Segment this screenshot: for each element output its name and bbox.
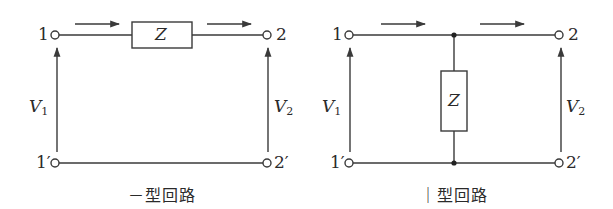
v1-label: V1 (29, 98, 48, 117)
shunt-circuit-caption: ｜型回路 (420, 188, 488, 204)
circuit-drawing (0, 0, 613, 209)
series-circuit-caption: －型回路 (128, 188, 196, 204)
terminal-1prime-circle (51, 159, 59, 167)
terminal-1prime-label: 1′ (330, 154, 345, 171)
v2-label: V2 (274, 98, 293, 117)
shunt-impedance-label: Z (448, 92, 460, 109)
v2-label: V2 (566, 98, 585, 117)
terminal-2prime-circle (555, 159, 563, 167)
junction-dot-bottom (451, 160, 456, 165)
terminal-2-circle (263, 31, 271, 39)
terminal-1-circle (51, 31, 59, 39)
v1-label: V1 (322, 98, 341, 117)
junction-dot-top (451, 32, 456, 37)
terminal-1-label: 1 (38, 26, 49, 43)
terminal-2-label: 2 (568, 26, 579, 43)
terminal-2-label: 2 (276, 26, 287, 43)
series-impedance-label: Z (155, 26, 167, 43)
terminal-2prime-label: 2′ (566, 154, 581, 171)
terminal-1prime-circle (345, 159, 353, 167)
terminal-2prime-circle (263, 159, 271, 167)
terminal-1prime-label: 1′ (36, 154, 51, 171)
terminal-1-circle (345, 31, 353, 39)
terminal-1-label: 1 (332, 26, 343, 43)
terminal-2prime-label: 2′ (274, 154, 289, 171)
terminal-2-circle (555, 31, 563, 39)
two-port-circuit-figure: 1 2 1′ 2′ Z V1 V2 －型回路 1 2 1′ 2′ Z V1 V2… (0, 0, 613, 209)
